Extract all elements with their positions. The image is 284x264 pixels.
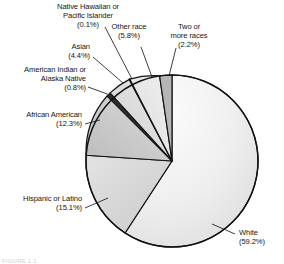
label-line-2: (15.1%) [2,203,82,212]
label-line-2: (4.4%) [10,51,90,60]
label-line-2: Alaska Native [2,74,86,83]
label-line-2: more races [159,31,219,40]
label-line-2: (59.2%) [239,237,283,246]
label-line-2: (5.8%) [101,31,157,40]
label-line-1: African American [2,110,82,119]
label-line-2: (12.3%) [2,119,82,128]
leader-line-other-race [141,47,152,77]
label-two-or-more-races: Two or more races (2.2%) [159,22,219,50]
label-american-indian-or-alaska-native: American Indian or Alaska Native (0.8%) [2,65,86,93]
label-line-2: Pacific Islander [28,11,148,20]
label-line-3: (0.8%) [2,83,86,92]
pie-chart-figure: Native Hawaiian or Pacific Islander (0.1… [0,0,284,264]
leader-line-asian [93,57,123,83]
label-line-1: American Indian or [2,65,86,74]
label-asian: Asian (4.4%) [10,42,90,60]
label-african-american: African American (12.3%) [2,110,82,128]
label-hispanic-or-latino: Hispanic or Latino (15.1%) [2,194,82,212]
leader-line-two-or-more-races [169,48,176,76]
leader-line-american-indian [88,87,110,95]
figure-caption-fragment: FIGURE 1.1 [2,258,37,264]
label-other-race: Other race (5.8%) [101,22,157,40]
label-white: White (59.2%) [239,228,283,246]
label-line-1: Asian [10,42,90,51]
label-line-3: (2.2%) [159,40,219,49]
label-line-1: Hispanic or Latino [2,194,82,203]
label-line-1: White [239,228,283,237]
label-line-1: Two or [159,22,219,31]
label-line-1: Native Hawaiian or [28,2,148,11]
label-line-1: Other race [101,22,157,31]
